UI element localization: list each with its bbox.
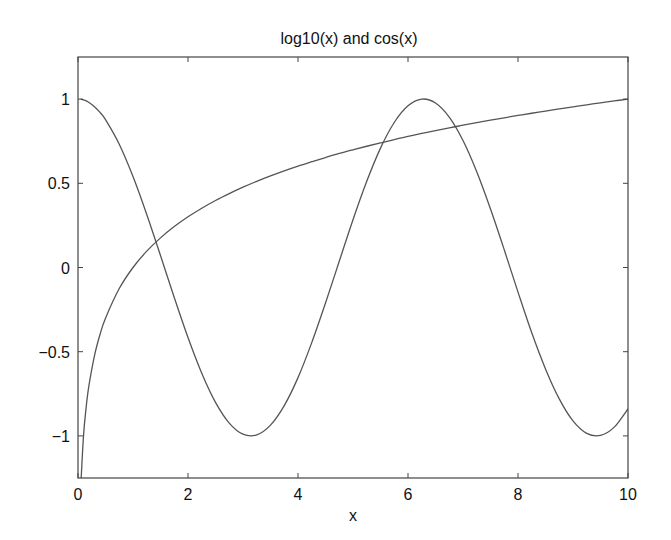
- line-chart: log10(x) and cos(x) 0246810 −1−0.500.51 …: [0, 0, 671, 540]
- x-tick-label: 0: [74, 486, 83, 503]
- x-tick-label: 10: [619, 486, 637, 503]
- series-line-log10-x: [81, 99, 628, 486]
- x-tick-label: 2: [184, 486, 193, 503]
- chart-title: log10(x) and cos(x): [281, 30, 418, 47]
- y-tick-label: 0: [61, 260, 70, 277]
- y-tick-label: 0.5: [48, 175, 70, 192]
- y-tick-label: −0.5: [38, 344, 70, 361]
- axes-box: [78, 57, 628, 478]
- y-axis: −1−0.500.51: [38, 91, 628, 445]
- x-tick-label: 8: [514, 486, 523, 503]
- y-tick-label: 1: [61, 91, 70, 108]
- x-tick-label: 6: [404, 486, 413, 503]
- y-tick-label: −1: [52, 428, 70, 445]
- x-tick-label: 4: [294, 486, 303, 503]
- x-axis: 0246810: [74, 57, 637, 503]
- x-axis-label: x: [349, 507, 357, 524]
- series-layer: [81, 99, 628, 487]
